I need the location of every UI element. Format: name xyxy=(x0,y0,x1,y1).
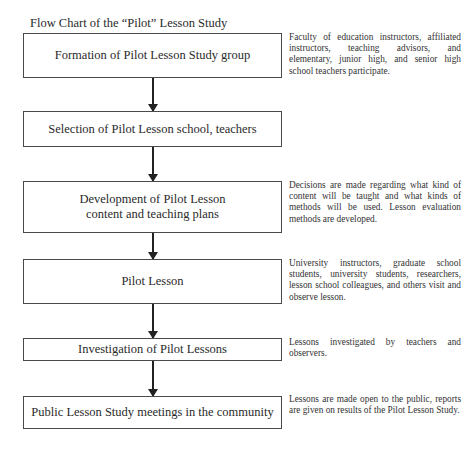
flowchart-title: Flow Chart of the “Pilot” Lesson Study xyxy=(30,16,227,30)
step-label: Formation of Pilot Lesson Study group xyxy=(49,48,257,63)
step-label: Investigation of Pilot Lessons xyxy=(72,342,233,357)
step-note-development: Decisions are made regarding what kind o… xyxy=(289,180,461,225)
step-label: Development of Pilot Lesson content and … xyxy=(24,192,281,222)
step-note-pilot-lesson: University instructors, graduate school … xyxy=(289,258,461,303)
arrow-down-icon xyxy=(152,304,154,338)
step-box-formation: Formation of Pilot Lesson Study group xyxy=(23,33,282,78)
arrow-down-icon xyxy=(152,78,154,111)
step-label: Public Lesson Study meetings in the comm… xyxy=(25,405,279,420)
arrow-down-icon xyxy=(152,147,154,181)
step-box-pilot-lesson: Pilot Lesson xyxy=(23,259,282,304)
step-box-public-meetings: Public Lesson Study meetings in the comm… xyxy=(23,396,282,429)
step-label: Selection of Pilot Lesson school, teache… xyxy=(42,122,262,137)
step-note-formation: Faculty of education instructors, affili… xyxy=(289,32,461,77)
step-box-development: Development of Pilot Lesson content and … xyxy=(23,181,282,233)
arrow-down-icon xyxy=(152,361,154,396)
step-box-selection: Selection of Pilot Lesson school, teache… xyxy=(23,111,282,147)
step-note-public-meetings: Lessons are made open to the public, rep… xyxy=(289,394,461,416)
arrow-down-icon xyxy=(152,233,154,259)
step-box-investigation: Investigation of Pilot Lessons xyxy=(23,338,282,361)
step-label: Pilot Lesson xyxy=(115,274,189,289)
step-note-investigation: Lessons investigated by teachers and obs… xyxy=(289,337,461,359)
